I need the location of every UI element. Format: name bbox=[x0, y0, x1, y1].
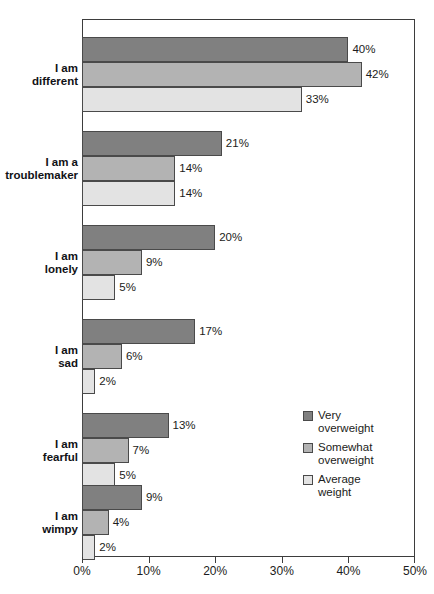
bar-value-label: 6% bbox=[122, 344, 143, 369]
x-axis-tick bbox=[215, 557, 216, 563]
legend-item[interactable]: Averageweight bbox=[303, 473, 403, 499]
legend-label: Veryoverweight bbox=[318, 409, 374, 435]
bar bbox=[82, 319, 195, 344]
x-axis-tick bbox=[348, 557, 349, 563]
x-axis-tick-label: 50% bbox=[403, 564, 427, 578]
bar-value-label: 40% bbox=[348, 37, 375, 62]
x-axis-tick bbox=[282, 557, 283, 563]
chart-title bbox=[0, 0, 434, 2]
bar bbox=[82, 369, 95, 394]
legend-label: Averageweight bbox=[318, 473, 361, 499]
bar-value-label: 14% bbox=[175, 181, 202, 206]
legend-label: Somewhatoverweight bbox=[318, 441, 374, 467]
category-label: I amdifferent bbox=[0, 62, 78, 88]
category-axis-labels: I amdifferentI am atroublemakerI amlonel… bbox=[0, 19, 78, 557]
x-axis-tick bbox=[82, 557, 83, 563]
bar-value-label: 33% bbox=[302, 87, 329, 112]
legend-item[interactable]: Somewhatoverweight bbox=[303, 441, 403, 467]
bar-value-label: 21% bbox=[222, 131, 249, 156]
legend-swatch-icon bbox=[303, 411, 313, 421]
x-axis-tick-label: 20% bbox=[203, 564, 227, 578]
x-axis-tick-labels: 0%10%20%30%40%50% bbox=[0, 564, 434, 582]
bar bbox=[82, 62, 362, 87]
x-axis-ticks bbox=[82, 557, 415, 563]
bar-value-label: 5% bbox=[115, 275, 136, 300]
bar bbox=[82, 510, 109, 535]
bar-value-label: 4% bbox=[109, 510, 130, 535]
bar bbox=[82, 250, 142, 275]
x-axis-tick bbox=[414, 557, 415, 563]
category-label: I am atroublemaker bbox=[0, 156, 78, 182]
bar-value-label: 14% bbox=[175, 156, 202, 181]
legend-item[interactable]: Veryoverweight bbox=[303, 409, 403, 435]
bar bbox=[82, 275, 115, 300]
legend-swatch-icon bbox=[303, 475, 313, 485]
bar-value-label: 13% bbox=[169, 413, 196, 438]
bar-value-label: 17% bbox=[195, 319, 222, 344]
bar bbox=[82, 181, 175, 206]
x-axis-tick-label: 0% bbox=[73, 564, 90, 578]
bar bbox=[82, 344, 122, 369]
bar-value-label: 9% bbox=[142, 485, 163, 510]
bar bbox=[82, 87, 302, 112]
bar bbox=[82, 37, 348, 62]
bar bbox=[82, 485, 142, 510]
category-label: I amwimpy bbox=[0, 510, 78, 536]
bar-value-label: 7% bbox=[129, 438, 150, 463]
category-label: I amlonely bbox=[0, 250, 78, 276]
bar-value-label: 9% bbox=[142, 250, 163, 275]
x-axis-tick-label: 40% bbox=[336, 564, 360, 578]
category-label: I amsad bbox=[0, 344, 78, 370]
x-axis-tick-label: 10% bbox=[137, 564, 161, 578]
bar bbox=[82, 225, 215, 250]
bar bbox=[82, 413, 169, 438]
bar bbox=[82, 438, 129, 463]
category-label: I amfearful bbox=[0, 438, 78, 464]
x-axis-tick-label: 30% bbox=[270, 564, 294, 578]
chart-legend: VeryoverweightSomewhatoverweightAveragew… bbox=[303, 409, 403, 505]
bar-value-label: 20% bbox=[215, 225, 242, 250]
bar-value-label: 2% bbox=[95, 369, 116, 394]
bar bbox=[82, 156, 175, 181]
bar bbox=[82, 131, 222, 156]
bar-value-label: 42% bbox=[362, 62, 389, 87]
x-axis-tick bbox=[149, 557, 150, 563]
legend-swatch-icon bbox=[303, 443, 313, 453]
